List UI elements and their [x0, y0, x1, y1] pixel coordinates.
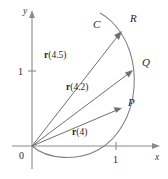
x-tick-label-1: 1 — [113, 154, 118, 165]
vector-r42-label-arg: (4.2) — [70, 82, 88, 93]
vector-r42-label: r(4.2) — [66, 82, 88, 93]
vector-r4-arrowhead — [114, 107, 122, 113]
vector-r4-label: r(4) — [72, 127, 87, 138]
vector-r45-label: r(4.5) — [44, 50, 66, 61]
y-axis-arrowhead — [29, 10, 35, 18]
curve-c-label: C — [93, 18, 101, 30]
vector-function-figure: R Q P C y x 1 1 0 r(4.5) r(4.2) r(4) — [0, 0, 168, 179]
point-q-label: Q — [142, 56, 150, 68]
point-r-label: R — [129, 12, 137, 24]
point-p-label: P — [127, 96, 135, 108]
vector-r45-label-arg: (4.5) — [48, 50, 66, 61]
figure-canvas: R Q P C y x 1 1 0 r(4.5) r(4.2) r(4) — [0, 0, 168, 179]
x-axis-label: x — [154, 152, 160, 162]
y-axis-label: y — [22, 6, 28, 16]
vector-r42-arrowhead — [125, 70, 133, 78]
vector-r4-label-arg: (4) — [76, 127, 87, 138]
x-axis-arrowhead — [152, 143, 160, 149]
y-tick-label-1: 1 — [18, 66, 23, 77]
origin-label: 0 — [19, 150, 24, 161]
